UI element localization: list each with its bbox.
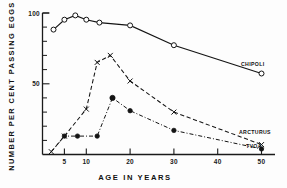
series-arcturus-point: [171, 110, 176, 115]
y-axis-title: NUMBER PER CENT PASSING EGGS: [7, 1, 16, 170]
series-label-chipoli: CHIPOLI: [241, 61, 265, 67]
x-ticklabel-10: 10: [82, 158, 90, 165]
x-ticklabel-40: 40: [214, 158, 222, 165]
y-ticks-group: [43, 13, 50, 140]
y-ticklabels-group: 100 50: [28, 10, 40, 88]
y-ticklabel-100: 100: [28, 10, 40, 17]
x-ticklabel-5: 5: [62, 158, 66, 165]
series-arcturus: ARCTURUS: [49, 53, 271, 154]
series-chipoli-point: [84, 17, 89, 22]
x-ticklabel-20: 20: [126, 158, 134, 165]
series-arcturus-point: [95, 60, 100, 65]
series-arcturus-point: [128, 79, 133, 84]
series-label-tvoa: TVOA: [246, 143, 262, 149]
series-chipoli-point: [128, 23, 133, 28]
series-chipoli-point: [62, 17, 67, 22]
series-chipoli-point: [171, 43, 176, 48]
chart-svg: 100 50 5 10 20 30 40 50 AGE IN YEARS NUM…: [0, 0, 287, 188]
series-tvoa-point: [172, 128, 176, 132]
series-tvoa-point: [75, 134, 79, 138]
series-chipoli-point: [73, 13, 78, 18]
x-ticklabel-30: 30: [170, 158, 178, 165]
series-label-arcturus: ARCTURUS: [239, 129, 271, 135]
y-ticklabel-50: 50: [32, 80, 40, 87]
series-tvoa: TVOA: [51, 95, 263, 151]
x-ticklabels-group: 5 10 20 30 40 50: [62, 158, 265, 165]
series-tvoa-point: [110, 95, 115, 100]
series-chipoli-line: [54, 15, 262, 73]
series-tvoa-point: [62, 134, 66, 138]
series-arcturus-point: [108, 53, 113, 58]
x-ticks-group: [64, 149, 261, 155]
series-tvoa-point: [128, 109, 132, 113]
series-tvoa-line: [51, 98, 261, 152]
series-tvoa-point: [95, 134, 99, 138]
series-chipoli: CHIPOLI: [51, 13, 265, 76]
series-arcturus-line: [51, 55, 261, 151]
series-chipoli-point: [97, 20, 102, 25]
x-axis-title: AGE IN YEARS: [98, 173, 172, 182]
chart-figure: 100 50 5 10 20 30 40 50 AGE IN YEARS NUM…: [0, 0, 287, 188]
series-chipoli-point: [51, 27, 56, 32]
x-ticklabel-50: 50: [258, 158, 266, 165]
series-chipoli-point: [259, 71, 264, 76]
